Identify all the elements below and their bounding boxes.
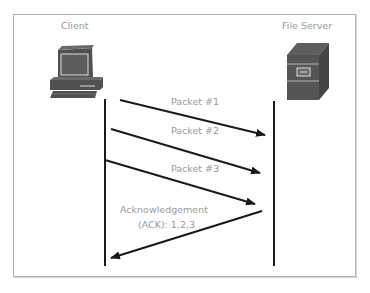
server-tower-icon <box>287 43 329 100</box>
packet-2-label: Packet #2 <box>171 125 219 136</box>
sequence-diagram <box>0 0 370 293</box>
ack-label-line2: (ACK): 1,2,3 <box>138 219 195 230</box>
desktop-computer-icon <box>50 45 103 98</box>
server-label: File Server <box>282 20 332 31</box>
packet-1-label: Packet #1 <box>171 96 219 107</box>
client-label: Client <box>61 20 89 31</box>
ack-label-line1: Acknowledgement <box>120 204 208 215</box>
packet-3-label: Packet #3 <box>171 163 219 174</box>
